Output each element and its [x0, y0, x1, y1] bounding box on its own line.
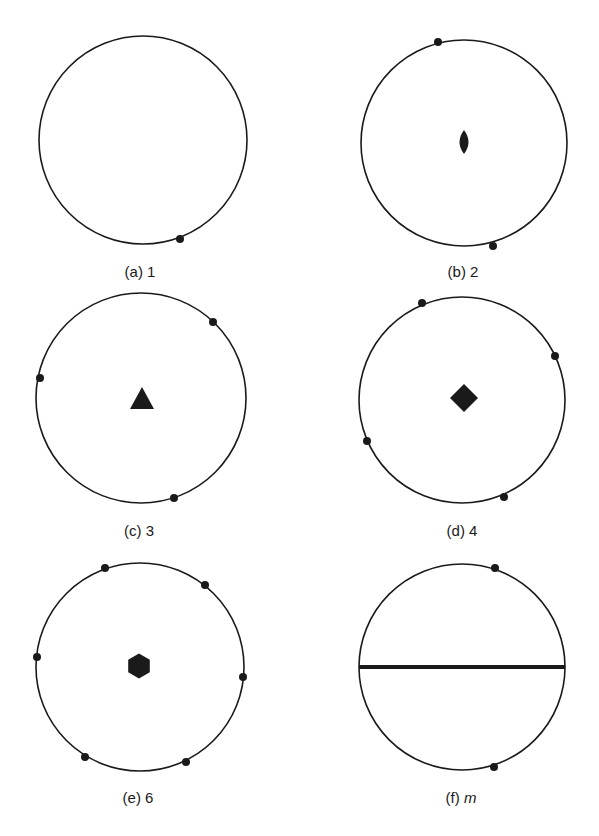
panel-label-prefix: (c)	[124, 522, 146, 539]
pole-point	[36, 374, 44, 382]
pole-point	[182, 758, 190, 766]
panel-label-symbol: 4	[469, 522, 477, 539]
pole-point	[81, 753, 89, 761]
pole-point	[101, 564, 109, 572]
pole-point	[490, 763, 498, 771]
panel-f: (f) m	[359, 564, 565, 806]
panel-b: (b) 2	[361, 38, 567, 280]
panel-label: (d) 4	[447, 522, 478, 539]
pole-point	[239, 673, 247, 681]
panel-label: (a) 1	[125, 263, 156, 280]
panel-label-prefix: (e)	[123, 789, 146, 806]
threefold-axis-icon	[130, 387, 154, 409]
panel-d: (d) 4	[359, 297, 565, 539]
pole-point	[551, 352, 559, 360]
pole-point	[500, 493, 508, 501]
symmetry-diagram: (a) 1(b) 2(c) 3(d) 4(e) 6(f) m	[0, 0, 599, 836]
panel-a: (a) 1	[39, 36, 247, 280]
panel-label: (c) 3	[124, 522, 154, 539]
projection-circle	[39, 36, 247, 244]
panel-label: (e) 6	[123, 789, 154, 806]
pole-point	[363, 437, 371, 445]
panel-e: (e) 6	[33, 563, 247, 806]
sixfold-axis-icon	[128, 654, 150, 679]
pole-point	[209, 318, 217, 326]
panel-label-symbol: m	[464, 789, 477, 806]
panel-c: (c) 3	[36, 293, 246, 539]
panel-label-symbol: 3	[146, 522, 154, 539]
fourfold-axis-icon	[450, 384, 478, 412]
panel-label-symbol: 2	[470, 263, 478, 280]
panel-label-prefix: (f)	[446, 789, 464, 806]
panel-label-prefix: (a)	[125, 263, 148, 280]
pole-point	[33, 653, 41, 661]
panel-label: (f) m	[446, 789, 477, 806]
pole-point	[418, 299, 426, 307]
pole-point	[489, 242, 497, 250]
panel-label-prefix: (b)	[448, 263, 471, 280]
twofold-axis-icon	[460, 130, 469, 154]
pole-point	[176, 235, 184, 243]
pole-point	[170, 494, 178, 502]
pole-point	[434, 38, 442, 46]
panel-label-symbol: 6	[145, 789, 153, 806]
panel-label-prefix: (d)	[447, 522, 470, 539]
panel-label-symbol: 1	[147, 263, 155, 280]
pole-point	[491, 564, 499, 572]
panel-label: (b) 2	[448, 263, 479, 280]
pole-point	[201, 581, 209, 589]
